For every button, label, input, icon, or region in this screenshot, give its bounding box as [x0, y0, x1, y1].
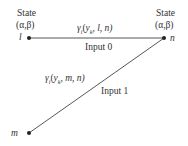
edge-0-input-label: Input 0: [85, 43, 112, 53]
node-n-label: n: [170, 34, 175, 44]
state-n-title: State: [156, 9, 175, 19]
metric-args: , m, n): [60, 73, 84, 83]
edge-0-metric: γi(yk, l, n): [77, 24, 113, 35]
trellis-diagram: State (α,β) l State (α,β) n m γi(yk, l, …: [0, 0, 188, 146]
node-l-label: l: [19, 33, 22, 43]
node-m-dot: [27, 131, 31, 135]
metric-args: , l, n): [92, 23, 112, 33]
edge-1-input-label: Input 1: [101, 87, 128, 97]
node-m-label: m: [11, 129, 18, 139]
state-l-title: State: [17, 9, 36, 19]
state-n-params: (α,β): [155, 21, 174, 31]
edge-1-metric: γi(yk, m, n): [45, 74, 85, 85]
state-l-params: (α,β): [16, 21, 35, 31]
node-n-dot: [162, 36, 166, 40]
node-l-dot: [27, 36, 31, 40]
